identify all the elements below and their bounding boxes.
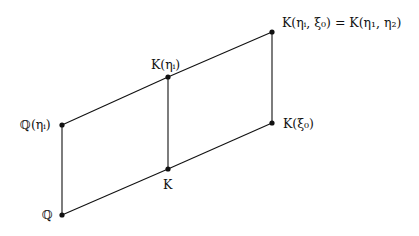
node-K_eta (165, 74, 170, 79)
node-label-K_eta: K(ηᵢ) (151, 57, 180, 72)
edge-Q_eta-K_eta (62, 77, 168, 125)
edge-Q-K (62, 169, 168, 215)
edge-K-K_xi (168, 123, 272, 169)
node-label-K: K (163, 177, 173, 192)
node-Q (59, 212, 64, 217)
field-lattice-diagram: ℚℚ(ηᵢ)KK(ηᵢ)K(ξ₀)K(ηᵢ, ξ₀) = K(η₁, η₂) (0, 0, 419, 236)
node-Q_eta (59, 122, 64, 127)
node-K (165, 166, 170, 171)
node-K_xi (269, 120, 274, 125)
node-label-K_xi: K(ξ₀) (283, 116, 314, 131)
node-label-Q_eta: ℚ(ηᵢ) (20, 117, 51, 132)
node-K_eta_xi (269, 29, 274, 34)
node-label-K_eta_xi: K(ηᵢ, ξ₀) = K(η₁, η₂) (282, 15, 401, 30)
edge-K_eta-K_eta_xi (168, 32, 272, 77)
node-label-Q: ℚ (42, 207, 53, 222)
